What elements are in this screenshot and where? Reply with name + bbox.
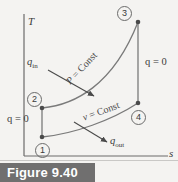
figure-caption-bar: Figure 9.40 [0,163,95,182]
ts-diagram-plot: T s q = 0 q = 0 qin qout P = Const v = C… [0,0,178,160]
state-point-1 [40,135,45,140]
process-curves-group [42,22,138,137]
figure-caption-text: Figure 9.40 [0,165,78,180]
state-point-2 [40,106,45,111]
ts-diagram-svg [0,0,178,160]
caption-divider [0,160,178,161]
state-point-4 [136,101,141,106]
q-out-arrow [74,122,107,142]
q-in-arrow [48,70,94,96]
state-points-group [40,20,141,140]
state-point-3 [136,20,141,25]
process-2-3-isobaric [42,22,138,108]
figure-container: T s q = 0 q = 0 qin qout P = Const v = C… [0,0,178,182]
